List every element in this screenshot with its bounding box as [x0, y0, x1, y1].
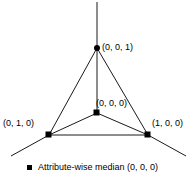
outward-rays [11, 2, 186, 156]
ray-right-down [148, 135, 186, 156]
right-vertex-marker [145, 132, 151, 138]
apex-vertex-label: (0, 0, 1) [102, 42, 133, 53]
apex-vertex-marker [94, 45, 100, 51]
legend-square-marker-icon [27, 165, 32, 170]
center-median-marker [94, 110, 100, 116]
spoke-center-left [49, 113, 97, 135]
center-median-label: (0, 0, 0) [96, 98, 127, 109]
edge-apex-right [97, 48, 148, 135]
bottom-left-vertex-label: (0, 1, 0) [3, 118, 34, 129]
vertex-markers [46, 45, 151, 138]
triangle-edges [49, 48, 148, 135]
center-spokes [49, 48, 148, 135]
bottom-right-vertex-label: (1, 0, 0) [152, 118, 183, 129]
legend-label: Attribute-wise median (0, 0, 0) [38, 162, 158, 173]
edge-apex-left [49, 48, 97, 135]
legend: Attribute-wise median (0, 0, 0) [27, 162, 158, 173]
diagram-canvas [0, 0, 195, 181]
left-vertex-marker [46, 132, 52, 138]
ray-left-down [11, 135, 49, 156]
spoke-center-right [97, 113, 148, 135]
simplex-diagram-figure: (0, 0, 1) (0, 1, 0) (1, 0, 0) (0, 0, 0) … [0, 0, 195, 181]
